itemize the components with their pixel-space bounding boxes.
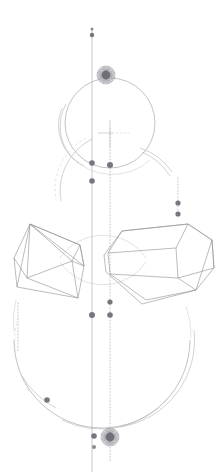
lower-arc-top-left — [13, 300, 16, 332]
right-poly-top-edge — [122, 224, 188, 231]
right-poly-face-i — [146, 290, 196, 300]
left-poly-top-face — [30, 224, 84, 266]
lower-arc-left — [22, 376, 56, 408]
node-right-lower — [175, 211, 180, 216]
upper-circle-echo — [58, 108, 84, 166]
right-poly-face-j — [196, 240, 212, 290]
left-poly-inner-edge-d — [27, 278, 78, 298]
lower-arc-top-right — [186, 306, 191, 338]
crosshair-mark — [98, 120, 130, 147]
mid-arc-upper — [60, 235, 146, 258]
node-arc-left — [44, 397, 50, 403]
mid-lens-arcs — [60, 235, 146, 285]
upper-circle-group — [55, 78, 172, 201]
node-mid-pair — [107, 312, 113, 318]
right-poly-face-k — [212, 240, 214, 268]
node-bottom-small — [92, 445, 96, 449]
lower-starburst-core — [106, 433, 115, 442]
upper-circle-echo-left — [60, 104, 78, 163]
right-polyhedron — [104, 224, 214, 304]
left-poly-inner-edge-f — [72, 245, 80, 261]
left-poly-inner-edge-h — [72, 261, 78, 298]
artwork-canvas — [0, 0, 223, 472]
left-poly-inner-edge-g — [72, 261, 84, 266]
upper-starburst — [97, 66, 115, 84]
lower-starburst — [101, 428, 119, 446]
node-mid-primary — [89, 312, 95, 318]
axis-group — [18, 30, 178, 472]
node-top-small — [91, 28, 94, 31]
upper-starburst-core — [102, 71, 111, 80]
node-bottom — [91, 433, 97, 439]
node-top — [90, 33, 94, 37]
lower-circle-echo-right — [120, 330, 195, 427]
line-art-illustration — [0, 0, 223, 472]
node-right-upper — [175, 200, 180, 205]
right-poly-outline — [104, 224, 214, 304]
right-poly-face-g — [178, 268, 214, 278]
node-below-circle — [89, 178, 95, 184]
node-circle-right — [107, 162, 113, 168]
upper-arc-dashed-left — [55, 138, 86, 200]
lower-circle-group — [13, 300, 194, 429]
left-poly-inner-edge-e — [27, 261, 72, 278]
left-polyhedron — [14, 224, 84, 298]
lower-circle — [14, 340, 190, 428]
right-poly-face-f — [178, 278, 196, 290]
right-poly-face-e — [110, 274, 178, 278]
right-poly-face-h — [188, 224, 212, 240]
right-poly-face-b — [108, 248, 176, 253]
right-poly-face-d — [176, 248, 178, 278]
node-mid-secondary — [107, 299, 112, 304]
left-poly-inner-edge-i — [30, 224, 72, 261]
lower-arc-dashed-left — [15, 318, 30, 392]
right-poly-face-c — [176, 224, 188, 248]
node-circle-left — [89, 160, 95, 166]
